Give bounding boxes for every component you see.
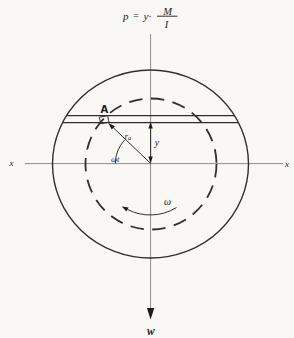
radius-label-subscript: a <box>128 134 131 141</box>
formula-p: p <box>122 10 129 22</box>
formula: p = y· M I <box>122 6 178 30</box>
radius-label: ra <box>125 131 132 142</box>
weight-label: w <box>147 325 155 337</box>
formula-numerator: M <box>162 6 173 17</box>
x-axis-label-left: x <box>9 158 14 168</box>
weight-arrowhead <box>147 308 154 320</box>
omega-label: ω <box>164 196 171 207</box>
formula-y-factor: y· <box>143 10 152 22</box>
point-a-label: A <box>101 104 109 115</box>
omega-arrowhead <box>122 206 129 211</box>
formula-denominator: I <box>164 19 169 30</box>
angle-label: ωt <box>111 154 120 164</box>
omega-arrow-arc <box>128 208 177 215</box>
rotating-shaft-cross-section-diagram: p = y· M I A ra ωt y <box>0 0 294 338</box>
figure: p = y· M I A ra ωt y <box>0 0 294 338</box>
formula-equals: = <box>133 10 140 21</box>
x-axis-label-right: x <box>284 159 289 169</box>
y-dimension-label: y <box>154 137 160 148</box>
